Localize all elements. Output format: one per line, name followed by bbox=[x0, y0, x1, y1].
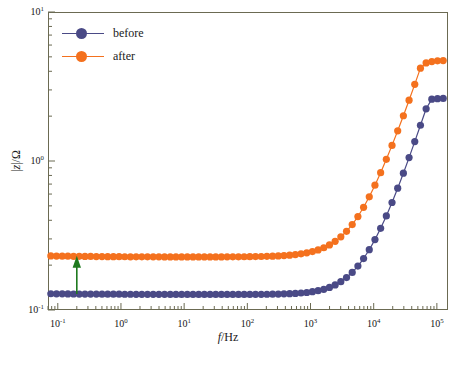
x-axis-ticks bbox=[48, 303, 437, 310]
x-tick-label: 101 bbox=[177, 319, 190, 329]
y-axis-title: |z|/Ω bbox=[9, 150, 24, 172]
y-tick-label: 101 bbox=[18, 7, 44, 17]
x-tick-label: 102 bbox=[241, 319, 254, 329]
x-axis-title: f/Hz bbox=[218, 330, 239, 345]
legend-item-after[interactable]: after bbox=[62, 47, 144, 65]
x-tick-label: 103 bbox=[304, 319, 317, 329]
y-axis-title-rest: |/Ω bbox=[9, 150, 23, 165]
x-tick-label: 105 bbox=[430, 319, 443, 329]
annotation-arrow bbox=[73, 256, 81, 294]
y-tick-label: 10-1 bbox=[18, 305, 44, 315]
y-axis-title-italic: z bbox=[9, 165, 23, 170]
y-axis-ticks bbox=[48, 12, 55, 310]
series-after bbox=[47, 57, 447, 261]
legend-label: after bbox=[113, 49, 135, 64]
legend-marker-dot bbox=[76, 51, 87, 62]
x-tick-label: 104 bbox=[367, 319, 380, 329]
chart-figure: 10-1100101102103104105 10-1100101 f/Hz |… bbox=[0, 0, 457, 366]
x-tick-label: 10-1 bbox=[50, 319, 66, 329]
legend-item-before[interactable]: before bbox=[62, 24, 144, 42]
x-axis-title-rest: /Hz bbox=[221, 330, 238, 344]
x-tick-label: 100 bbox=[114, 319, 127, 329]
chart-legend: beforeafter bbox=[62, 24, 144, 70]
legend-label: before bbox=[113, 26, 144, 41]
series-before bbox=[47, 95, 447, 298]
legend-swatch-after bbox=[62, 51, 104, 61]
legend-swatch-before bbox=[62, 28, 104, 38]
legend-marker-dot bbox=[76, 28, 87, 39]
